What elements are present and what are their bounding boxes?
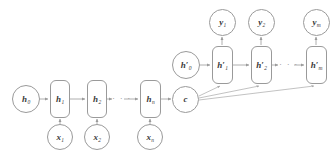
encoder-x2-sub: 2 xyxy=(98,137,101,143)
encoder-h0-sub: 0 xyxy=(27,99,30,105)
context-vector-c: c xyxy=(172,86,199,113)
encoder-cell-h2: h2 xyxy=(87,80,107,118)
decoder-output-y2: y2 xyxy=(248,9,275,36)
decoder-h1-sub: 1 xyxy=(225,65,228,71)
decoder-h0-prime: ′ xyxy=(186,60,189,70)
decoder-y2-sub: 2 xyxy=(262,22,265,28)
decoder-ellipsis: · · · xyxy=(279,60,299,69)
decoder-ym-label: y xyxy=(313,17,317,27)
encoder-initial-state-h0: h0 xyxy=(12,85,40,113)
encoder-hn-label: h xyxy=(147,94,152,104)
decoder-cell-h1-prime: h′1 xyxy=(212,46,233,84)
decoder-hm-sub: m xyxy=(319,65,323,71)
encoder-hn-sub: n xyxy=(152,99,155,105)
context-c-label: c xyxy=(184,94,188,104)
decoder-ym-sub: m xyxy=(317,22,321,28)
decoder-output-ym: ym xyxy=(303,9,330,36)
encoder-input-xn: xn xyxy=(137,124,163,150)
decoder-cell-h2-prime: h′2 xyxy=(251,46,272,84)
decoder-initial-state-h0-prime: h′0 xyxy=(172,51,200,79)
decoder-cell-hm-prime: h′m xyxy=(306,46,327,84)
encoder-xn-sub: n xyxy=(151,137,154,143)
encoder-input-x1: x1 xyxy=(47,124,73,150)
decoder-output-y1: y1 xyxy=(209,9,236,36)
encoder-input-x2: x2 xyxy=(84,124,110,150)
encoder-h1-sub: 1 xyxy=(61,99,64,105)
decoder-hm-prime: ′ xyxy=(316,60,319,70)
decoder-y1-sub: 1 xyxy=(223,22,226,28)
encoder-h2-sub: 2 xyxy=(98,99,101,105)
encoder-cell-h1: h1 xyxy=(50,80,70,118)
decoder-h2-sub: 2 xyxy=(264,65,267,71)
seq2seq-diagram: h0 h1 h2 · · · hn x1 x2 xn c h′0 h′1 h′2… xyxy=(0,0,333,159)
encoder-ellipsis: · · · xyxy=(112,94,132,103)
encoder-cell-hn: hn xyxy=(140,80,161,118)
encoder-x1-sub: 1 xyxy=(61,137,64,143)
decoder-h0-sub: 0 xyxy=(189,65,192,71)
